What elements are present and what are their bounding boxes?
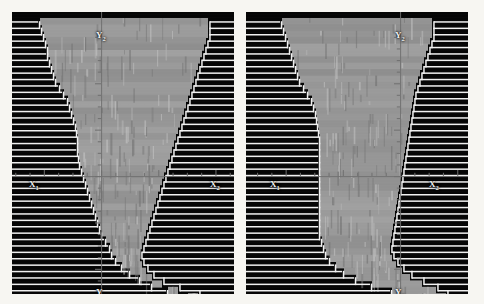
right-plot-area <box>246 12 468 294</box>
figure-margin-left <box>0 0 12 304</box>
right-plot-svg <box>246 12 468 294</box>
left-plot-svg <box>12 12 234 294</box>
figure-margin-right <box>468 0 484 304</box>
figure-panel-separator <box>234 0 246 304</box>
figure-margin-bottom <box>0 294 484 304</box>
figure-container: X1 X2 Y2 Y1 X1 X2 Y2 Y1 <box>0 0 484 304</box>
left-profile-panel[interactable]: X1 X2 Y2 Y1 <box>12 12 234 294</box>
left-plot-area <box>12 12 234 294</box>
right-profile-panel[interactable]: X1 X2 Y2 Y1 <box>246 12 468 294</box>
